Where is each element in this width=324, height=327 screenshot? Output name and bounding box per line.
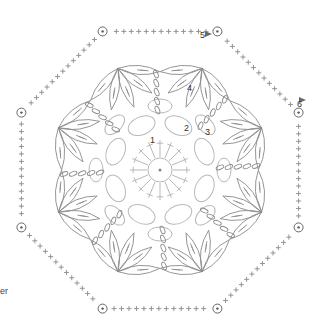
- round-label-1: 1: [150, 136, 155, 145]
- crochet-chart: [0, 0, 324, 327]
- arrow-icon: [205, 31, 212, 37]
- round-label-2: 2: [184, 124, 189, 133]
- corner-marker-icon: [17, 223, 26, 232]
- corner-marker-icon: [98, 27, 107, 36]
- corner-marker-icon: [294, 223, 303, 232]
- corner-marker-icon: [98, 304, 107, 313]
- round-label-4: 4: [187, 84, 192, 93]
- corner-marker-icon: [17, 108, 26, 117]
- corner-marker-icon: [213, 304, 222, 313]
- corner-marker-icon: [294, 108, 303, 117]
- round-label-3: 3: [205, 128, 210, 137]
- round-label-6: 6: [297, 100, 302, 109]
- inner-rounds: [89, 99, 231, 241]
- corner-marker-icon: [213, 27, 222, 36]
- round-label-5: 5: [200, 31, 205, 40]
- edge-text: er: [0, 287, 8, 296]
